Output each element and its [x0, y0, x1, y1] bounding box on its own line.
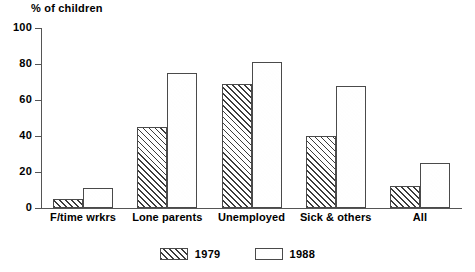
legend-label-1979: 1979: [195, 248, 221, 260]
bar-1988-all: [420, 163, 450, 208]
legend-item-1988: 1988: [255, 248, 316, 260]
y-axis-tick: [35, 208, 41, 209]
y-axis-title: % of children: [31, 2, 103, 14]
legend-item-1979: 1979: [160, 248, 221, 260]
y-axis-tick-label: 40: [2, 129, 32, 141]
bar-1988-f-time-wrkrs: [83, 188, 113, 208]
bar-1988-sick-others: [336, 86, 366, 208]
y-axis-tick-label: 60: [2, 93, 32, 105]
x-axis-label-all: All: [366, 211, 474, 223]
legend-swatch-1988: [255, 248, 283, 260]
y-axis-tick-label: 100: [2, 21, 32, 33]
bar-1979-f-time-wrkrs: [53, 199, 83, 208]
bar-1988-lone-parents: [167, 73, 197, 208]
y-axis-tick-label: 80: [2, 57, 32, 69]
y-axis-tick-label: 0: [2, 201, 32, 213]
bar-1979-lone-parents: [137, 127, 167, 208]
chart-legend: 19791988: [0, 248, 475, 260]
bar-chart: % of children 100806040200 F/time wrkrsL…: [0, 0, 475, 272]
legend-swatch-1979: [160, 248, 188, 260]
plot-bars: [41, 28, 462, 208]
bar-1979-unemployed: [222, 84, 252, 208]
bar-1979-sick-others: [306, 136, 336, 208]
bar-1979-all: [390, 186, 420, 208]
legend-label-1988: 1988: [290, 248, 316, 260]
x-axis-line: [41, 208, 462, 209]
y-axis-tick-label: 20: [2, 165, 32, 177]
bar-1988-unemployed: [252, 62, 282, 208]
